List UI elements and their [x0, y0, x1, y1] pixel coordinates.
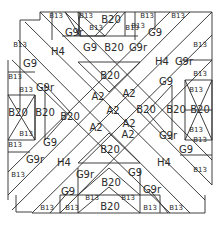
label-b20: B20 — [136, 104, 156, 115]
label-b20: B20 — [60, 111, 80, 122]
label-b13: B13 — [40, 204, 54, 212]
label-g9r: G9r — [36, 82, 55, 93]
label-b13: B13 — [8, 73, 22, 81]
label-b13: B13 — [169, 204, 183, 212]
label-b13: B13 — [193, 136, 207, 144]
label-b13: B13 — [89, 24, 103, 32]
label-g9: G9 — [179, 144, 193, 155]
label-g9: G9 — [128, 167, 142, 178]
label-b13: B13 — [140, 12, 154, 20]
label-a2: A2 — [91, 91, 104, 102]
label-a2: A2 — [89, 122, 102, 133]
label-g9r: G9r — [76, 169, 95, 180]
label-b20: B20 — [101, 14, 121, 25]
label-b13: B13 — [19, 130, 33, 138]
label-b13: B13 — [193, 166, 207, 174]
label-g9r: G9r — [129, 42, 148, 53]
label-b20: B20 — [35, 107, 55, 118]
patch-labels: B13 B13 B20 B13 B13 B13 B13 B13 G9r G9 B… — [8, 12, 210, 212]
label-g9: G9 — [43, 137, 57, 148]
label-b13: B13 — [143, 204, 157, 212]
label-g9: G9 — [23, 58, 37, 69]
label-b13: B13 — [85, 194, 99, 202]
label-h4: H4 — [57, 157, 71, 168]
label-g9: G9 — [148, 27, 162, 38]
label-h4: H4 — [51, 46, 65, 57]
label-b13: B13 — [8, 141, 22, 149]
label-b13: B13 — [193, 41, 207, 49]
label-a2: A2 — [122, 118, 135, 129]
label-h4: H4 — [155, 56, 169, 67]
label-b20: B20 — [166, 104, 186, 115]
label-b13: B13 — [171, 12, 185, 20]
label-a2: A2 — [106, 105, 119, 116]
label-a2: A2 — [122, 88, 135, 99]
label-b20: B20 — [100, 144, 120, 155]
label-g9: G9 — [83, 42, 97, 53]
label-b20: B20 — [100, 70, 120, 81]
label-b13: B13 — [131, 22, 145, 30]
label-g9r: G9r — [175, 56, 194, 67]
label-b20: B20 — [190, 104, 210, 115]
label-b13: B13 — [65, 204, 79, 212]
quilt-block-svg: B13 B13 B20 B13 B13 B13 B13 B13 G9r G9 B… — [0, 0, 218, 225]
label-b20: B20 — [100, 201, 120, 212]
label-b13: B13 — [189, 126, 203, 134]
label-b13: B13 — [13, 41, 27, 49]
label-b13: B13 — [193, 70, 207, 78]
label-g9r: G9r — [143, 184, 162, 195]
label-g9r: G9r — [65, 27, 84, 38]
label-b13: B13 — [49, 12, 63, 20]
label-g9: G9 — [159, 76, 173, 87]
label-b13: B13 — [121, 194, 135, 202]
label-b20: B20 — [101, 177, 121, 188]
label-b13: B13 — [79, 12, 93, 20]
label-h4: H4 — [157, 157, 171, 168]
label-b13: B13 — [189, 86, 203, 94]
label-a2: A2 — [121, 129, 134, 140]
label-b20: B20 — [104, 42, 124, 53]
label-b13: B13 — [19, 86, 33, 94]
label-b20: B20 — [8, 107, 28, 118]
label-g9r: G9r — [26, 154, 45, 165]
label-g9r: G9r — [159, 130, 178, 141]
quilt-block-diagram: B13 B13 B20 B13 B13 B13 B13 B13 G9r G9 B… — [0, 0, 218, 225]
label-g9: G9 — [61, 186, 75, 197]
label-b13: B13 — [11, 171, 25, 179]
